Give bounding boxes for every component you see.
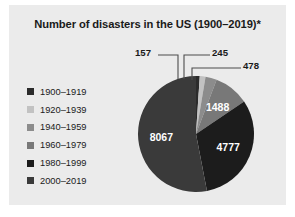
- legend-item-label: 2000–2019: [40, 176, 87, 186]
- pie-slice-value-label: 1488: [206, 101, 230, 113]
- legend-item-label: 1960–1979: [40, 140, 87, 150]
- pie-slice-value-label: 4777: [216, 141, 240, 153]
- pie-slice-value-label: 8067: [150, 131, 174, 143]
- legend-item-label: 1980–1999: [40, 158, 87, 168]
- legend-item[interactable]: 1920–1939: [27, 101, 127, 119]
- chart-legend: 1900–1919 1920–1939 1940–1959 1960–1979 …: [27, 83, 127, 190]
- legend-item[interactable]: 1940–1959: [27, 119, 127, 137]
- page-title: Number of disasters in the US (1900–2019…: [9, 18, 286, 30]
- legend-item-label: 1900–1919: [40, 87, 87, 97]
- legend-item[interactable]: 1900–1919: [27, 83, 127, 101]
- legend-swatch-icon: [27, 142, 34, 149]
- chart-figure: Number of disasters in the US (1900–2019…: [9, 5, 286, 205]
- legend-item[interactable]: 1960–1979: [27, 136, 127, 154]
- legend-item-label: 1940–1959: [40, 122, 87, 132]
- pie-svg: 148847778067: [122, 35, 286, 205]
- legend-swatch-icon: [27, 124, 34, 131]
- legend-item[interactable]: 1980–1999: [27, 154, 127, 172]
- legend-item[interactable]: 2000–2019: [27, 172, 127, 190]
- legend-item-label: 1920–1939: [40, 105, 87, 115]
- pie-chart: 157 245 478 148847778067: [122, 35, 286, 205]
- legend-swatch-icon: [27, 160, 34, 167]
- legend-swatch-icon: [27, 106, 34, 113]
- legend-swatch-icon: [27, 177, 34, 184]
- legend-swatch-icon: [27, 88, 34, 95]
